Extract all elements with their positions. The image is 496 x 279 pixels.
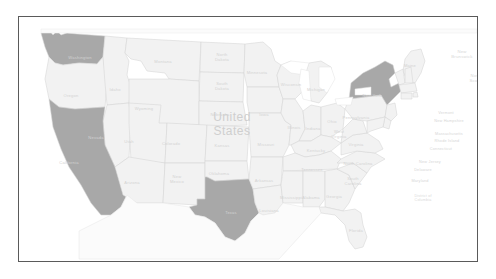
map-screenshot: MexicoUnitedStatesNewBrunswickNovaScotia… bbox=[0, 0, 496, 279]
lake-erie bbox=[335, 97, 353, 105]
lake-michigan bbox=[299, 69, 311, 101]
state-rhode-island bbox=[413, 92, 418, 97]
lake-huron bbox=[319, 67, 335, 93]
state-arkansas bbox=[249, 157, 283, 189]
state-new-mexico bbox=[163, 163, 205, 205]
state-montana bbox=[125, 38, 201, 81]
state-kansas bbox=[205, 125, 249, 161]
map-frame: MexicoUnitedStatesNewBrunswickNovaScotia… bbox=[18, 16, 478, 262]
canada-landmass bbox=[41, 29, 477, 33]
state-vermont bbox=[395, 69, 405, 85]
state-alabama bbox=[303, 171, 325, 207]
state-ohio bbox=[321, 103, 345, 137]
state-connecticut bbox=[401, 93, 412, 99]
state-iowa bbox=[247, 87, 283, 113]
state-florida bbox=[319, 207, 367, 249]
state-oklahoma bbox=[205, 161, 249, 181]
state-colorado bbox=[165, 123, 207, 163]
state-minnesota bbox=[244, 42, 281, 87]
state-nebraska bbox=[199, 101, 247, 127]
map-states-layer bbox=[41, 29, 477, 259]
state-south-dakota bbox=[199, 72, 244, 102]
state-oregon bbox=[45, 57, 107, 109]
state-north-dakota bbox=[200, 42, 245, 73]
state-massachusetts bbox=[399, 83, 417, 93]
us-choropleth-map[interactable] bbox=[19, 17, 477, 261]
state-mississippi bbox=[281, 171, 303, 203]
